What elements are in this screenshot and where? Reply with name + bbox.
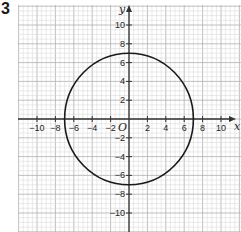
x-tick-label: 8: [200, 123, 205, 133]
y-tick-label: −10: [110, 208, 125, 218]
y-tick-label: 10: [115, 20, 125, 30]
y-tick-label: 4: [120, 76, 125, 86]
y-axis-label: y: [118, 3, 126, 16]
y-tick-label: −6: [115, 170, 125, 180]
y-tick-label: −2: [115, 133, 125, 143]
tick-labels: −10−8−6−4−2246810108642−2−4−6−8−10xyO: [29, 3, 241, 218]
x-tick-label: −8: [50, 123, 60, 133]
y-tick-label: 2: [120, 95, 125, 105]
x-tick-label: 6: [182, 123, 187, 133]
y-tick-label: −4: [115, 152, 125, 162]
x-tick-label: −4: [87, 123, 97, 133]
x-axis-label: x: [234, 120, 241, 133]
y-tick-label: 6: [120, 58, 125, 68]
y-tick-label: 8: [120, 39, 125, 49]
origin-label: O: [118, 121, 127, 134]
coordinate-graph: −10−8−6−4−2246810108642−2−4−6−8−10xyO: [0, 0, 241, 232]
x-tick-label: −6: [69, 123, 79, 133]
x-tick-label: 4: [163, 123, 168, 133]
y-tick-label: −8: [115, 189, 125, 199]
x-tick-label: 2: [145, 123, 150, 133]
x-tick-label: 10: [216, 123, 226, 133]
x-tick-label: −2: [105, 123, 115, 133]
x-tick-label: −10: [29, 123, 44, 133]
